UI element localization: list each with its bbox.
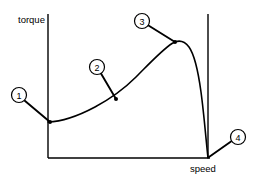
- y-axis-label: torque: [18, 14, 45, 25]
- callout-1-label: 1: [16, 91, 21, 101]
- axes-group: [48, 14, 210, 158]
- callout-2-label: 2: [94, 63, 99, 73]
- figure-canvas: torque speed 1 2 3 4: [0, 0, 258, 184]
- callout-3-marker: [173, 40, 177, 44]
- torque-speed-curve: [48, 41, 208, 158]
- x-axis-label: speed: [190, 163, 216, 174]
- callout-3-leader: [149, 26, 176, 43]
- torque-speed-figure: torque speed 1 2 3 4: [0, 0, 258, 184]
- callout-2[interactable]: 2: [90, 60, 119, 102]
- callout-3[interactable]: 3: [135, 14, 178, 45]
- callout-1[interactable]: 1: [12, 88, 53, 125]
- callout-1-leader: [25, 101, 51, 123]
- callout-3-label: 3: [139, 17, 144, 27]
- callout-4-label: 4: [235, 133, 240, 143]
- callout-4-leader: [209, 142, 231, 158]
- callout-4[interactable]: 4: [209, 130, 246, 158]
- callout-2-leader: [101, 74, 116, 100]
- callout-2-marker: [114, 97, 118, 101]
- callout-1-marker: [48, 120, 52, 124]
